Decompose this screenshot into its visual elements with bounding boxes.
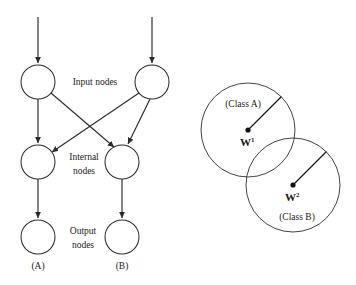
edge-input-b-to-internal-a <box>52 93 139 152</box>
class-region-diagram: (Class A) W1 W2 (Class B) <box>201 83 340 232</box>
label-output-nodes-line1: Output <box>70 226 97 236</box>
class-b-weight-label: W2 <box>285 191 300 203</box>
node-input-b[interactable] <box>135 65 169 99</box>
label-input-nodes: Input nodes <box>73 77 118 87</box>
node-output-b[interactable] <box>105 220 139 254</box>
network-diagram: Input nodes Internal nodes Output nodes … <box>21 17 169 272</box>
node-input-a[interactable] <box>21 65 55 99</box>
class-b-center-dot <box>290 182 295 187</box>
node-output-a[interactable] <box>21 220 55 254</box>
class-a-weight-superscript: 1 <box>251 136 255 144</box>
edge-input-a-to-internal-b <box>51 93 114 147</box>
label-internal-nodes-line1: Internal <box>69 152 99 162</box>
edge-input-b-to-internal-b <box>128 99 150 144</box>
class-a-weight-label: W1 <box>240 136 255 148</box>
figure-root: Input nodes Internal nodes Output nodes … <box>0 0 356 285</box>
node-internal-a[interactable] <box>21 145 55 179</box>
caption-output-a: (A) <box>31 261 44 272</box>
class-a-center-dot <box>245 127 250 132</box>
class-b-radius-line <box>293 152 327 186</box>
class-b-weight-superscript: 2 <box>296 191 300 199</box>
label-internal-nodes-line2: nodes <box>73 166 95 176</box>
label-output-nodes-line2: nodes <box>72 240 94 250</box>
caption-output-b: (B) <box>116 261 129 272</box>
class-a-label: (Class A) <box>225 99 261 110</box>
node-internal-b[interactable] <box>105 145 139 179</box>
class-a-weight-symbol: W <box>240 136 251 148</box>
diagram-canvas: Input nodes Internal nodes Output nodes … <box>0 0 356 285</box>
class-b-weight-symbol: W <box>285 191 296 203</box>
class-b-label: (Class B) <box>279 212 315 223</box>
